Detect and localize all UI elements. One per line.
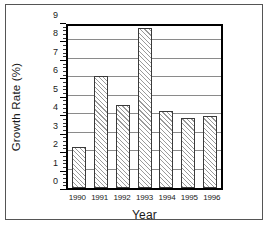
- y-tick-label-8: 8: [53, 29, 58, 38]
- bar-1996: [203, 116, 217, 188]
- x-tick-label-1990: 1990: [66, 193, 88, 203]
- bar-slot: [177, 26, 199, 188]
- bar-1992: [116, 105, 130, 188]
- y-tick-label-1: 1: [53, 158, 58, 167]
- x-tick-label-1992: 1992: [111, 193, 133, 203]
- bar-slot: [68, 26, 90, 188]
- bar-slot: [90, 26, 112, 188]
- bar-1995: [181, 118, 195, 188]
- bar-slot: [112, 26, 134, 188]
- x-axis-tick-labels: 1990199119921993199419951996: [66, 193, 223, 207]
- x-tick-label-1996: 1996: [201, 193, 223, 203]
- y-tick-label-7: 7: [53, 47, 58, 56]
- x-tick-label-1993: 1993: [133, 193, 155, 203]
- y-tick-label-5: 5: [53, 84, 58, 93]
- y-tick-label-6: 6: [53, 66, 58, 75]
- bar-1990: [72, 147, 86, 188]
- bar-1991: [94, 76, 108, 189]
- x-axis-title: Year: [66, 208, 223, 222]
- y-axis: 0123456789: [6, 24, 66, 190]
- y-tick-label-3: 3: [53, 121, 58, 130]
- bar-series: [68, 26, 221, 188]
- bar-slot: [155, 26, 177, 188]
- y-tick-label-9: 9: [53, 11, 58, 20]
- bar-slot: [199, 26, 221, 188]
- bar-slot: [134, 26, 156, 188]
- y-tick-label-4: 4: [53, 103, 58, 112]
- y-tick-label-0: 0: [53, 177, 58, 186]
- plot-area: [66, 24, 223, 190]
- bar-1994: [159, 111, 173, 188]
- x-tick-label-1995: 1995: [178, 193, 200, 203]
- y-tick-label-2: 2: [53, 140, 58, 149]
- bar-1993: [138, 28, 152, 188]
- figure-frame: Growth Rate (%) 0123456789 1990199119921…: [5, 4, 263, 220]
- chart-screenshot: Growth Rate (%) 0123456789 1990199119921…: [0, 0, 271, 227]
- x-tick-label-1991: 1991: [88, 193, 110, 203]
- x-tick-label-1994: 1994: [156, 193, 178, 203]
